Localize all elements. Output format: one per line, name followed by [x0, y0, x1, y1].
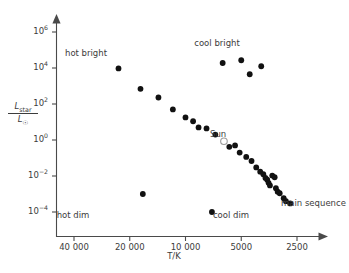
star-marker	[196, 125, 202, 131]
y-tick-exponent: 6	[44, 24, 48, 31]
y-tick-mantissa: 10	[33, 134, 44, 144]
y-tick-exponent: −2	[39, 168, 48, 175]
star-marker	[140, 191, 146, 197]
star-marker	[183, 115, 189, 121]
x-tick-label-3: 5000	[230, 243, 252, 252]
star-marker	[247, 71, 253, 77]
y-den-subscript: ☉	[23, 118, 29, 126]
x-axis-arrow	[319, 232, 329, 240]
star-marker	[156, 95, 162, 101]
star-marker	[277, 190, 283, 196]
star-marker	[267, 183, 273, 189]
star-marker	[190, 118, 196, 124]
y-tick-label-1: 104	[14, 63, 48, 72]
label-cool-dim: cool dim	[213, 211, 249, 220]
label-cool-bright: cool bright	[194, 39, 240, 48]
x-axis-ticks	[74, 237, 297, 242]
star-marker	[226, 144, 232, 150]
x-tick-label-4: 2500	[286, 243, 308, 252]
star-marker	[204, 126, 210, 132]
y-tick-label-5: 10−4	[14, 207, 48, 216]
y-tick-mantissa: 10	[33, 62, 44, 72]
star-marker	[238, 57, 244, 63]
star-marker	[220, 60, 226, 66]
star-marker	[116, 66, 122, 72]
y-tick-mantissa: 10	[33, 26, 44, 36]
y-tick-label-0: 106	[14, 27, 48, 36]
star-marker	[237, 150, 243, 156]
hr-diagram-figure: 10610410210010−210−4 40 00020 00010 0005…	[0, 0, 349, 273]
star-marker	[170, 107, 176, 113]
data-points	[116, 57, 294, 215]
y-tick-mantissa: 10	[28, 206, 39, 216]
x-tick-label-0: 40 000	[59, 243, 89, 252]
y-tick-exponent: 2	[44, 96, 48, 103]
star-marker	[249, 158, 255, 164]
label-main-sequence: main sequence	[281, 199, 346, 208]
y-num-subscript: star	[19, 106, 31, 114]
label-hot-bright: hot bright	[65, 49, 107, 58]
star-marker	[253, 165, 259, 171]
y-axis-arrow	[52, 14, 60, 24]
y-axis-title: Lstar L☉	[6, 102, 40, 125]
star-marker	[232, 143, 238, 149]
star-marker	[243, 154, 249, 160]
y-axis-title-denominator: L☉	[6, 114, 40, 125]
y-tick-mantissa: 10	[28, 170, 39, 180]
y-tick-label-3: 100	[14, 135, 48, 144]
x-tick-label-1: 20 000	[115, 243, 145, 252]
plot-canvas	[0, 0, 349, 273]
y-tick-label-4: 10−2	[14, 171, 48, 180]
label-hot-dim: hot dim	[57, 211, 90, 220]
star-marker	[258, 63, 264, 69]
star-marker	[138, 86, 144, 92]
label-sun: Sun	[210, 130, 226, 139]
y-axis-title-numerator: Lstar	[6, 102, 40, 113]
y-tick-exponent: −4	[39, 204, 48, 211]
y-tick-exponent: 0	[44, 132, 48, 139]
x-axis-title: T/K	[167, 252, 181, 261]
y-tick-exponent: 4	[44, 60, 48, 67]
star-marker	[272, 174, 278, 180]
y-axis-ticks	[52, 32, 57, 212]
